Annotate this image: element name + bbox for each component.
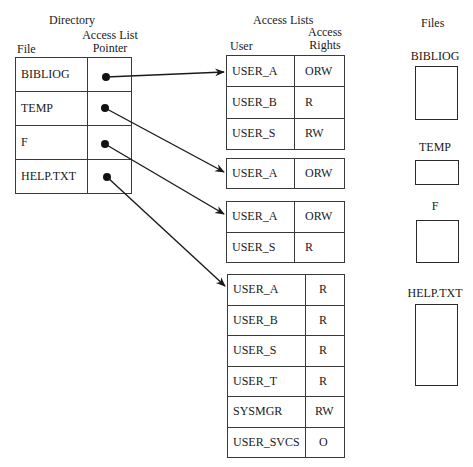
user-name: USER_A (232, 166, 277, 180)
access-entry: USER_S RW (227, 118, 345, 149)
access-entry: USER_S R (227, 232, 345, 263)
directory-row: TEMP (16, 92, 132, 126)
user-name: USER_A (233, 282, 278, 296)
user-cell: USER_A (227, 202, 295, 233)
access-entry: USER_A R (228, 275, 345, 306)
directory-col-file: File (17, 43, 36, 56)
directory-title: Directory (49, 14, 95, 27)
rights-cell: ORW (295, 159, 345, 189)
user-name: SYSMGR (233, 404, 282, 418)
file-name: BIBLIOG (21, 67, 70, 81)
user-cell: USER_A (227, 56, 295, 87)
user-name: USER_SVCS (233, 435, 300, 449)
directory-file-cell: TEMP (16, 92, 88, 126)
file-block-f (416, 220, 459, 263)
user-name: USER_A (232, 64, 277, 78)
file-name: TEMP (21, 101, 53, 115)
access-entry: SYSMGR RW (228, 397, 345, 428)
access-list-temp: USER_A ORW (226, 158, 345, 189)
rights-value: ORW (295, 209, 344, 224)
rights-cell: R (295, 87, 345, 118)
directory-file-cell: BIBLIOG (16, 58, 88, 92)
user-name: USER_A (232, 209, 277, 223)
user-cell: USER_SVCS (228, 427, 306, 458)
access-col-rights: Access Rights (300, 26, 350, 52)
user-cell: USER_B (228, 305, 306, 336)
pointer-cell (88, 126, 132, 160)
access-list-bibliog: USER_A ORW USER_B R USER_S RW (226, 55, 345, 150)
directory-file-cell: F (16, 126, 88, 160)
access-list-f: USER_A ORW USER_S R (226, 201, 345, 263)
rights-cell: ORW (295, 56, 345, 87)
rights-value: RW (306, 404, 344, 419)
user-name: USER_S (232, 240, 275, 254)
user-cell: USER_T (228, 366, 306, 397)
rights-cell: R (306, 275, 345, 306)
file-label-bibliog: BIBLIOG (395, 50, 473, 63)
files-title: Files (421, 17, 444, 30)
rights-cell: RW (306, 397, 345, 428)
rights-value: R (295, 240, 344, 255)
rights-cell: RW (295, 118, 345, 149)
pointer-cell (88, 160, 132, 194)
user-name: USER_T (233, 374, 277, 388)
file-name: F (21, 135, 28, 149)
file-name: HELP.TXT (21, 169, 76, 183)
directory-row: BIBLIOG (16, 58, 132, 92)
rights-value: RW (295, 126, 344, 141)
rights-cell: O (306, 427, 345, 458)
user-cell: USER_S (228, 336, 306, 367)
user-cell: SYSMGR (228, 397, 306, 428)
access-entry: USER_S R (228, 336, 345, 367)
user-name: USER_S (232, 126, 275, 140)
pointer-cell (88, 92, 132, 126)
rights-value: R (295, 95, 344, 110)
access-entry: USER_T R (228, 366, 345, 397)
access-col-rights-line2: Rights (300, 39, 350, 52)
pointer-cell (88, 58, 132, 92)
rights-value: R (306, 343, 344, 358)
access-entry: USER_A ORW (227, 202, 345, 233)
rights-cell: R (306, 305, 345, 336)
file-block-bibliog (415, 66, 458, 120)
user-cell: USER_A (228, 275, 306, 306)
file-label-temp: TEMP (395, 141, 473, 154)
user-name: USER_S (233, 343, 276, 357)
file-block-temp (415, 160, 459, 185)
file-label-help-txt: HELP.TXT (395, 287, 473, 300)
access-entry: USER_SVCS O (228, 427, 345, 458)
rights-cell: R (306, 366, 345, 397)
directory-col-pointer-line2: Pointer (80, 42, 140, 55)
rights-value: ORW (295, 166, 344, 181)
directory-row: F (16, 126, 132, 160)
access-list-help-txt: USER_A R USER_B R USER_S R USER_T R SYSM… (227, 274, 345, 458)
rights-value: R (306, 313, 344, 328)
directory-table: BIBLIOG TEMP F HELP.TXT (15, 57, 132, 194)
access-entry: USER_B R (228, 305, 345, 336)
user-cell: USER_S (227, 118, 295, 149)
access-entry: USER_A ORW (227, 56, 345, 87)
file-block-help-txt (415, 304, 458, 386)
access-col-user: User (230, 40, 253, 53)
rights-value: R (306, 374, 344, 389)
access-entry: USER_A ORW (227, 159, 345, 189)
rights-cell: ORW (295, 202, 345, 233)
rights-value: O (306, 435, 344, 450)
rights-value: ORW (295, 64, 344, 79)
directory-file-cell: HELP.TXT (16, 160, 88, 194)
directory-col-pointer: Access List Pointer (80, 29, 140, 55)
user-cell: USER_S (227, 232, 295, 263)
access-entry: USER_B R (227, 87, 345, 118)
rights-value: R (306, 282, 344, 297)
user-name: USER_B (232, 95, 277, 109)
user-cell: USER_B (227, 87, 295, 118)
user-name: USER_B (233, 313, 278, 327)
file-label-f: F (395, 200, 473, 213)
user-cell: USER_A (227, 159, 295, 189)
rights-cell: R (306, 336, 345, 367)
directory-row: HELP.TXT (16, 160, 132, 194)
rights-cell: R (295, 232, 345, 263)
